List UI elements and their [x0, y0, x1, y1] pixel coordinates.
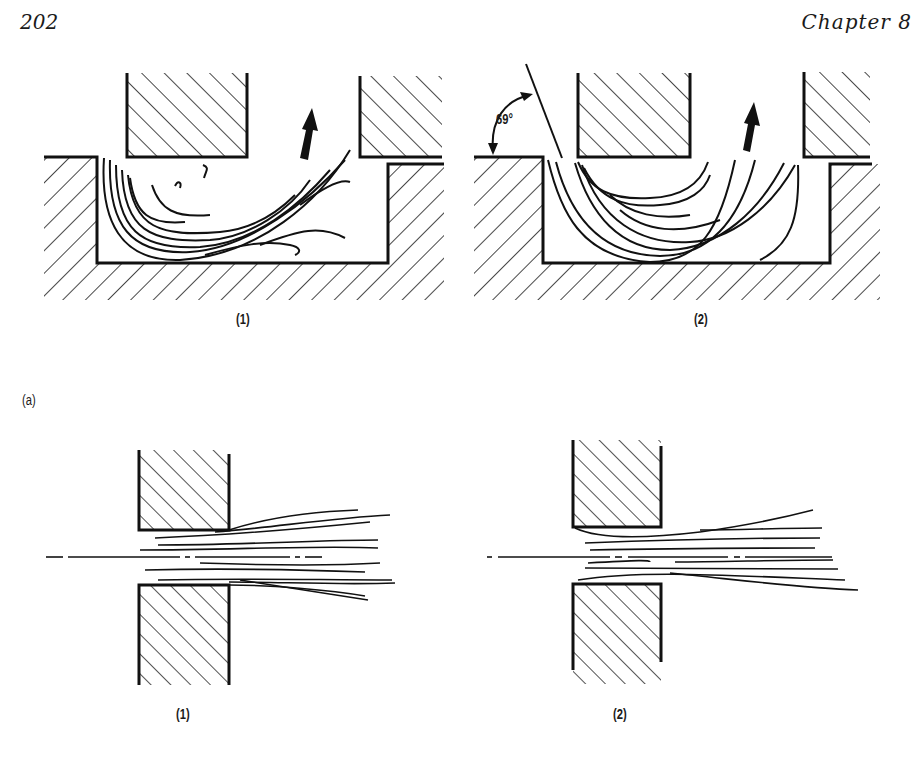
- caption-top-right: (2): [694, 311, 708, 327]
- part-label-a: (a): [22, 392, 36, 408]
- bottom-right-diagram: [487, 440, 858, 684]
- bottom-left-diagram: [46, 450, 395, 685]
- angle-label: 69°: [496, 111, 513, 127]
- caption-bottom-left: (1): [176, 706, 190, 722]
- caption-bottom-right: (2): [613, 706, 627, 722]
- caption-top-left: (1): [236, 311, 250, 327]
